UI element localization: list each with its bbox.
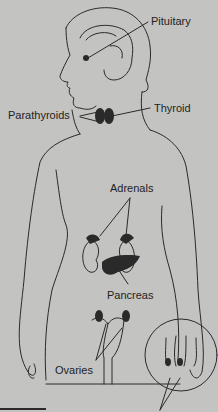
thyroid-gland-right	[104, 108, 114, 124]
neck-front	[72, 110, 80, 134]
magnifier-circle	[145, 319, 217, 391]
pancreas-gland	[102, 255, 140, 275]
adrenals-leader	[100, 198, 130, 236]
label-pancreas: Pancreas	[107, 290, 153, 301]
thyroid-leader	[112, 108, 150, 116]
left-shoulder-arm	[19, 134, 80, 375]
label-adrenals: Adrenals	[110, 183, 153, 194]
body-outline-illustration	[0, 0, 218, 412]
brain	[80, 25, 133, 80]
magnified-ovary-right	[177, 358, 183, 366]
left-torso	[45, 170, 67, 380]
label-ovaries: Ovaries	[55, 365, 93, 376]
label-pituitary: Pituitary	[151, 16, 191, 27]
label-parathyroids: Parathyroids	[8, 110, 70, 121]
scan-border-bar	[0, 408, 46, 410]
left-hand	[28, 366, 34, 378]
thyroid-gland-left	[95, 108, 105, 124]
pituitary-gland	[83, 55, 89, 61]
endocrine-diagram: Pituitary Thyroid Parathyroids Adrenals …	[0, 0, 218, 412]
uterus	[92, 318, 124, 384]
ovaries-leader	[96, 324, 122, 360]
right-ovary	[122, 310, 130, 322]
left-kidney	[83, 240, 99, 272]
face-profile	[60, 28, 96, 109]
left-ovary	[95, 310, 103, 322]
label-thyroid: Thyroid	[154, 103, 191, 114]
magnifier-leader	[160, 378, 180, 410]
neck-back	[141, 92, 150, 130]
magnified-ovary-left	[165, 358, 171, 366]
head-outline	[66, 8, 151, 92]
right-shoulder-arm	[150, 130, 203, 378]
